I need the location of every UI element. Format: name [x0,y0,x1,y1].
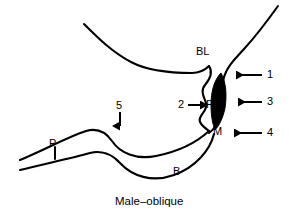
label-bl: BL [196,46,209,57]
callout-number-4: 4 [267,127,273,138]
label-b: B [173,166,180,177]
figure-male-oblique: BL Po M B P 1 2 3 4 5 Male–oblique [0,0,294,216]
anatomical-line-diagram [0,0,294,216]
label-m: M [213,126,222,137]
callout-number-1: 1 [267,69,273,80]
label-po: Po [206,99,219,110]
callout-number-3: 3 [267,96,273,107]
figure-caption: Male–oblique [115,196,183,208]
label-p: P [49,138,56,149]
callout-number-5: 5 [116,100,122,111]
callout-number-2: 2 [178,99,184,110]
right-superior-contour-path [226,6,278,72]
upper-contour-path [84,24,209,73]
